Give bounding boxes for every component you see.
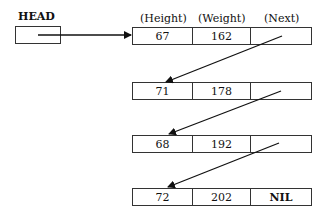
next-arrow-2 bbox=[169, 91, 281, 134]
pointer-arrows bbox=[0, 0, 324, 221]
next-arrow-1 bbox=[166, 36, 282, 82]
next-arrow-3 bbox=[168, 143, 279, 187]
